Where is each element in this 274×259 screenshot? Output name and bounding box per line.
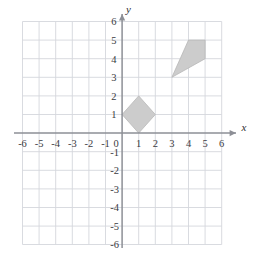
y-tick-label--6: -6 xyxy=(110,239,119,250)
x-tick-label--2: -2 xyxy=(85,138,94,149)
small-quadrilateral-shape xyxy=(122,96,155,133)
x-tick-label--5: -5 xyxy=(35,138,44,149)
x-tick-label--3: -3 xyxy=(68,138,77,149)
y-tick-label-5: 5 xyxy=(111,35,116,46)
x-tick-labels: -6 -5 -4 -3 -2 -1 0 1 2 3 4 5 6 xyxy=(18,138,224,149)
y-tick-label-1: 1 xyxy=(111,109,116,120)
x-tick-label-3: 3 xyxy=(169,138,174,149)
x-axis-label: x xyxy=(241,121,247,133)
coordinate-plane-svg: x y -6 -5 -4 -3 -2 -1 0 1 2 3 4 5 6 6 5 … xyxy=(0,0,274,259)
x-tick-label-5: 5 xyxy=(202,138,207,149)
y-tick-label-6: 6 xyxy=(111,16,116,27)
x-tick-label--6: -6 xyxy=(18,138,27,149)
x-tick-label-1: 1 xyxy=(136,138,141,149)
y-tick-label--5: -5 xyxy=(110,221,119,232)
coordinate-plane-figure: x y -6 -5 -4 -3 -2 -1 0 1 2 3 4 5 6 6 5 … xyxy=(0,0,274,259)
y-tick-label-3: 3 xyxy=(111,72,116,83)
y-tick-label-4: 4 xyxy=(111,54,117,65)
y-tick-label--2: -2 xyxy=(110,165,119,176)
x-tick-label-2: 2 xyxy=(153,138,158,149)
y-tick-label--1: -1 xyxy=(110,147,119,158)
x-tick-label--4: -4 xyxy=(51,138,60,149)
y-tick-label--4: -4 xyxy=(110,202,119,213)
y-tick-label--3: -3 xyxy=(110,184,119,195)
x-axis-arrow-icon xyxy=(230,130,236,136)
y-tick-label-2: 2 xyxy=(111,91,116,102)
y-axis-arrow-icon xyxy=(119,14,125,20)
x-tick-label-4: 4 xyxy=(186,138,192,149)
x-tick-label--1: -1 xyxy=(101,138,110,149)
x-tick-label-6: 6 xyxy=(219,138,224,149)
y-axis-label: y xyxy=(125,3,131,15)
